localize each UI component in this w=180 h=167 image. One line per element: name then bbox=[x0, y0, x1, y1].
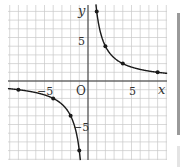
hyperbola-chart: y x O 5 −5 5 −5 bbox=[0, 0, 180, 167]
x-tick-label-neg5: −5 bbox=[37, 85, 53, 98]
data-point-marker bbox=[103, 44, 107, 48]
data-point-marker bbox=[69, 114, 73, 118]
data-point-marker bbox=[95, 9, 99, 13]
data-point-marker bbox=[77, 149, 81, 153]
x-tick-label-pos5: 5 bbox=[129, 85, 136, 98]
axes bbox=[8, 5, 167, 160]
origin-label: O bbox=[76, 84, 86, 98]
y-tick-label-neg5: −5 bbox=[73, 121, 89, 134]
y-tick-label-pos5: 5 bbox=[78, 35, 85, 48]
side-panel-lower bbox=[177, 146, 180, 167]
data-point-marker bbox=[121, 62, 125, 66]
data-point-marker bbox=[156, 70, 160, 74]
side-panel-edge bbox=[177, 13, 180, 135]
y-axis-label: y bbox=[77, 3, 86, 18]
axis-labels: y x O 5 −5 5 −5 bbox=[37, 3, 166, 134]
x-axis-label: x bbox=[158, 82, 166, 97]
data-point-marker bbox=[16, 88, 20, 92]
